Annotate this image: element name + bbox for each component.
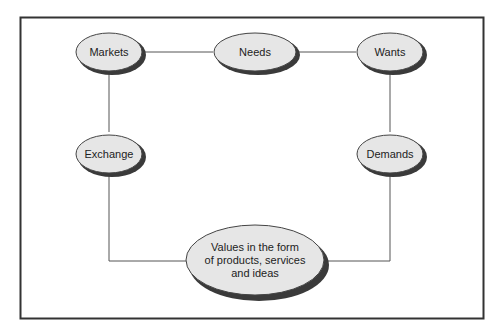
node-label-markets: Markets [89, 46, 129, 58]
diagram-canvas: Markets Needs Wants Exchange Demands Val… [0, 0, 502, 331]
node-label-values-line3: and ideas [231, 267, 279, 279]
node-label-exchange: Exchange [85, 148, 134, 160]
node-label-values-line1: Values in the form [211, 241, 299, 253]
node-label-wants: Wants [375, 46, 406, 58]
node-label-demands: Demands [366, 148, 414, 160]
node-label-needs: Needs [239, 46, 271, 58]
node-label-values-line2: of products, services [205, 254, 306, 266]
